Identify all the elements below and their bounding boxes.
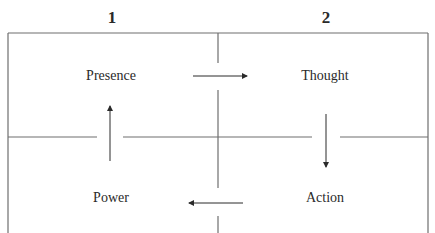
cycle-diagram: 1 2 Presence Thought (0, 0, 435, 233)
label-action: Action (306, 190, 344, 206)
label-power: Power (93, 190, 129, 206)
label-thought: Thought (301, 68, 348, 84)
label-presence: Presence (86, 68, 136, 84)
diagram-lines (0, 0, 435, 233)
